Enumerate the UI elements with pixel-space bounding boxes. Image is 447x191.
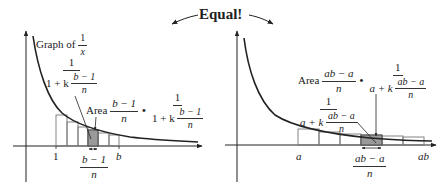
right-x-tick-ab: ab xyxy=(418,151,429,162)
left-height-label: 11 + k b − 1n xyxy=(44,57,99,96)
left-curve-label: Graph of 1x xyxy=(36,33,87,57)
right-height-label: 1a + k ab − an xyxy=(298,96,359,135)
left-width-label: b − 1n xyxy=(80,154,108,180)
equal-title: Equal! xyxy=(199,6,242,23)
left-area-label: Area b − 1n•11 + k b − 1n xyxy=(86,92,205,131)
right-width-label: ab − an xyxy=(353,153,386,179)
left-shaded-rectangle xyxy=(88,130,98,146)
right-shaded-rectangle xyxy=(361,135,382,145)
right-area-label: Area ab − an•1a + k ab − an xyxy=(298,62,428,101)
left-x-tick-1: 1 xyxy=(53,151,59,162)
left-x-tick-b: b xyxy=(116,151,122,162)
right-x-tick-a: a xyxy=(296,151,302,162)
